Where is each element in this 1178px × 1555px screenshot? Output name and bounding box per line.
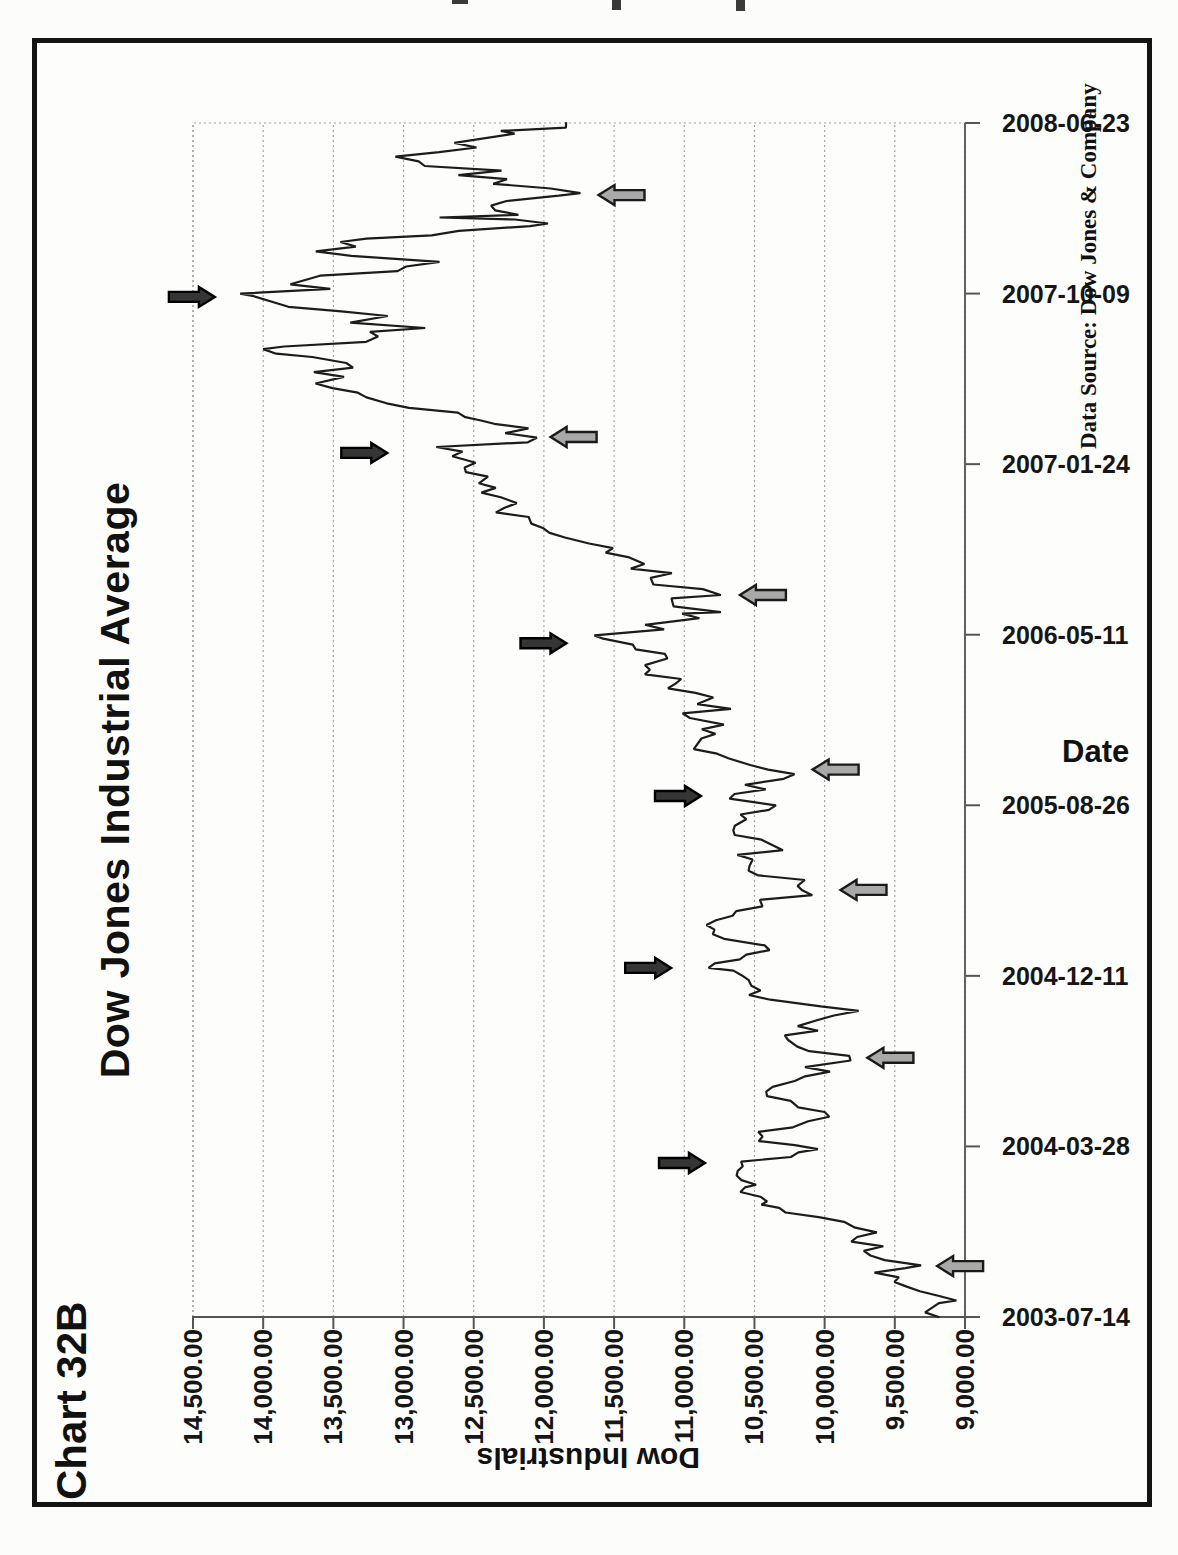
x-tick-label: 2007-10-09 (1002, 280, 1130, 309)
y-tick-label: 10,500.00 (739, 1329, 769, 1477)
bottom-marker-arrow (551, 427, 597, 447)
top-marker-arrow (341, 443, 387, 463)
y-tick-label: 12,000.00 (529, 1329, 559, 1477)
bottom-marker-arrow (599, 185, 645, 205)
x-tick-label: 2007-01-24 (1002, 450, 1130, 479)
y-tick-label: 14,500.00 (178, 1329, 208, 1477)
y-tick-label: 9,000.00 (950, 1329, 980, 1477)
y-tick-label: 11,000.00 (669, 1329, 699, 1477)
y-tick-label: 11,500.00 (599, 1329, 629, 1477)
y-tick-label: 9,500.00 (880, 1329, 910, 1477)
scanned-book-page: Chart 32B Dow Jones Industrial Average D… (0, 0, 1178, 1555)
y-tick-label: 10,000.00 (810, 1329, 840, 1477)
x-tick-label: 2006-05-11 (1002, 621, 1129, 650)
top-marker-arrow (625, 958, 671, 978)
x-tick-label: 2003-07-14 (1002, 1303, 1130, 1332)
y-tick-label: 12,500.00 (459, 1329, 489, 1477)
top-marker-arrow (659, 1153, 705, 1173)
bottom-marker-arrow (740, 585, 786, 605)
bottom-marker-arrow (841, 880, 887, 900)
bottom-marker-arrow (813, 760, 859, 780)
rotated-chart-canvas: Chart 32B Dow Jones Industrial Average D… (0, 0, 1178, 1555)
y-tick-label: 14,000.00 (248, 1329, 278, 1477)
bottom-marker-arrow (937, 1256, 983, 1276)
x-tick-label: 2008-06-23 (1002, 109, 1130, 138)
top-marker-arrow (655, 786, 701, 806)
x-tick-label: 2004-12-11 (1002, 962, 1129, 991)
plot-border (193, 123, 965, 1317)
x-axis-title: Date (1062, 734, 1129, 770)
bottom-marker-arrow (867, 1048, 913, 1068)
top-marker-arrow (169, 287, 215, 307)
y-tick-label: 13,000.00 (389, 1329, 419, 1477)
djia-price-line (240, 123, 956, 1317)
data-source-note: Data Source: Dow Jones & Company (1076, 83, 1102, 449)
y-tick-label: 13,500.00 (318, 1329, 348, 1477)
x-tick-label: 2004-03-28 (1002, 1132, 1130, 1161)
x-tick-label: 2005-08-26 (1002, 791, 1130, 820)
